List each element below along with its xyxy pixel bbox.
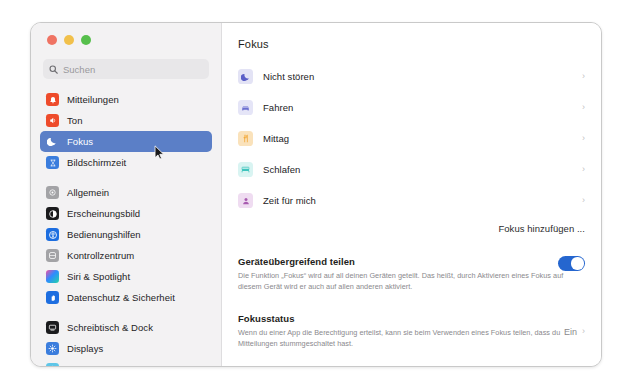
share-across-devices-title: Geräteübergreifend teilen xyxy=(238,256,587,267)
focus-status-description: Wenn du einer App die Berechtigung ertei… xyxy=(238,327,576,350)
displays-icon xyxy=(46,342,59,355)
main-content: Fokus Nicht stören › Fahren › xyxy=(222,23,601,366)
focus-status-value: Ein xyxy=(564,327,577,337)
car-icon xyxy=(238,100,253,115)
sidebar-group-2: Allgemein Erscheinungsbild Bedienungshil… xyxy=(31,173,221,308)
close-window-button[interactable] xyxy=(47,35,57,45)
sidebar-item-label: Ton xyxy=(67,115,82,126)
chevron-right-icon: › xyxy=(582,72,585,81)
sidebar-item-ton[interactable]: Ton xyxy=(40,110,212,131)
sidebar-group-3: Schreibtisch & Dock Displays Hintergrund… xyxy=(31,308,221,367)
focus-row-nicht-stoeren[interactable]: Nicht stören › xyxy=(238,61,587,92)
sidebar-item-label: Schreibtisch & Dock xyxy=(67,322,153,333)
general-gear-icon xyxy=(46,186,59,199)
person-icon xyxy=(238,193,253,208)
focus-row-label: Schlafen xyxy=(263,164,300,175)
share-across-devices-description: Die Funktion „Fokus“ wird auf all deinen… xyxy=(238,270,576,293)
sidebar-item-label: Erscheinungsbild xyxy=(67,208,140,219)
control-center-icon xyxy=(46,249,59,262)
privacy-hand-icon xyxy=(46,291,59,304)
share-across-devices-section: Geräteübergreifend teilen Die Funktion „… xyxy=(238,256,587,293)
window-traffic-lights xyxy=(31,23,221,45)
share-across-devices-toggle[interactable] xyxy=(558,256,585,271)
sidebar-item-label: Fokus xyxy=(67,136,93,147)
appearance-icon xyxy=(46,207,59,220)
fork-knife-icon xyxy=(238,131,253,146)
sidebar-item-label: Mitteilungen xyxy=(67,94,119,105)
screen: Mitteilungen Ton Fokus xyxy=(0,0,631,379)
sidebar-item-bedienungshilfen[interactable]: Bedienungshilfen xyxy=(40,224,212,245)
focus-moon-icon xyxy=(46,135,59,148)
sidebar-item-label: Bildschirmzeit xyxy=(67,157,126,168)
sidebar-group-1: Mitteilungen Ton Fokus xyxy=(31,85,221,173)
focus-status-title: Fokusstatus xyxy=(238,313,587,324)
notifications-icon xyxy=(46,93,59,106)
sidebar-item-fokus[interactable]: Fokus xyxy=(40,131,212,152)
focus-row-label: Fahren xyxy=(263,102,293,113)
focus-row-label: Nicht stören xyxy=(263,71,314,82)
sidebar-item-schreibtisch-dock[interactable]: Schreibtisch & Dock xyxy=(40,317,212,338)
desktop-dock-icon xyxy=(46,321,59,334)
moon-icon xyxy=(238,69,253,84)
sidebar-item-hintergrundbild[interactable]: Hintergrundbild xyxy=(40,359,212,367)
focus-row-schlafen[interactable]: Schlafen › xyxy=(238,154,587,185)
chevron-right-icon: › xyxy=(582,196,585,205)
sidebar-item-label: Hintergrundbild xyxy=(67,364,132,367)
wallpaper-icon xyxy=(46,363,59,367)
focus-modes-list: Nicht stören › Fahren › Mittag › xyxy=(238,61,587,216)
sidebar-item-bildschirmzeit[interactable]: Bildschirmzeit xyxy=(40,152,212,173)
chevron-right-icon: › xyxy=(582,134,585,143)
chevron-right-icon: › xyxy=(582,103,585,112)
maximize-window-button[interactable] xyxy=(81,35,91,45)
focus-row-label: Mittag xyxy=(263,133,289,144)
sidebar-item-label: Displays xyxy=(67,343,103,354)
sidebar-item-label: Siri & Spotlight xyxy=(67,271,130,282)
screentime-icon xyxy=(46,156,59,169)
sidebar-item-datenschutz-sicherheit[interactable]: Datenschutz & Sicherheit xyxy=(40,287,212,308)
accessibility-icon xyxy=(46,228,59,241)
sidebar-item-label: Bedienungshilfen xyxy=(67,229,141,240)
sidebar-item-label: Allgemein xyxy=(67,187,109,198)
sidebar-item-allgemein[interactable]: Allgemein xyxy=(40,182,212,203)
add-focus-button[interactable]: Fokus hinzufügen ... xyxy=(238,216,587,234)
focus-row-zeit-fuer-mich[interactable]: Zeit für mich › xyxy=(238,185,587,216)
search-icon xyxy=(49,60,58,78)
focus-row-fahren[interactable]: Fahren › xyxy=(238,92,587,123)
toggle-knob xyxy=(571,257,583,269)
focus-row-mittag[interactable]: Mittag › xyxy=(238,123,587,154)
sidebar-item-displays[interactable]: Displays xyxy=(40,338,212,359)
sound-icon xyxy=(46,114,59,127)
sidebar-item-mitteilungen[interactable]: Mitteilungen xyxy=(40,89,212,110)
search-input[interactable] xyxy=(63,64,203,75)
chevron-right-icon: › xyxy=(582,165,585,174)
sidebar-item-label: Datenschutz & Sicherheit xyxy=(67,292,175,303)
sidebar-item-siri-spotlight[interactable]: Siri & Spotlight xyxy=(40,266,212,287)
system-settings-window: Mitteilungen Ton Fokus xyxy=(30,22,602,367)
sidebar: Mitteilungen Ton Fokus xyxy=(31,23,222,366)
sidebar-item-kontrollzentrum[interactable]: Kontrollzentrum xyxy=(40,245,212,266)
bed-icon xyxy=(238,162,253,177)
focus-row-label: Zeit für mich xyxy=(263,195,316,206)
focus-status-control[interactable]: Ein › xyxy=(564,327,585,337)
focus-status-section: Fokusstatus Wenn du einer App die Berech… xyxy=(238,313,587,350)
search-field[interactable] xyxy=(43,59,209,79)
sidebar-item-erscheinungsbild[interactable]: Erscheinungsbild xyxy=(40,203,212,224)
page-title: Fokus xyxy=(238,23,587,50)
chevron-right-icon: › xyxy=(582,327,585,336)
sidebar-item-label: Kontrollzentrum xyxy=(67,250,134,261)
siri-icon xyxy=(46,270,59,283)
minimize-window-button[interactable] xyxy=(64,35,74,45)
